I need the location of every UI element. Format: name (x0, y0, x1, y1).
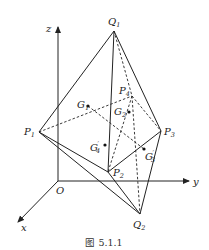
bipyramid-diagram: z y x O Q1 Q2 P1 P2 P3 P4 G1 G2 G′4 G′3 … (0, 0, 209, 250)
label-p3: P3 (163, 126, 175, 139)
label-z: z (45, 23, 52, 34)
point-g2 (127, 110, 130, 113)
label-origin: O (56, 185, 64, 196)
label-g4-prime: G′4 (90, 140, 100, 155)
label-g1: G1 (77, 99, 89, 112)
label-y: y (192, 176, 199, 187)
label-q2: Q2 (133, 219, 145, 232)
label-q1: Q1 (108, 16, 120, 29)
point-g4-prime (103, 143, 106, 146)
label-p1: P1 (23, 126, 35, 139)
label-g2: G2 (114, 106, 126, 119)
label-p4: P4 (118, 85, 130, 98)
label-g3-prime: G′3 (145, 149, 155, 164)
label-p2: P2 (112, 167, 124, 180)
figure-caption: 图 5.1.1 (85, 237, 122, 248)
label-x: x (21, 222, 27, 233)
x-axis (18, 181, 58, 222)
